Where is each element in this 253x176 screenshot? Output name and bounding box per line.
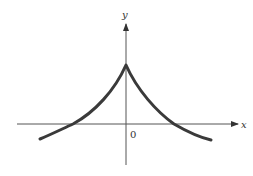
y-axis-label: y	[121, 9, 128, 20]
chart: y x 0	[0, 0, 253, 176]
x-axis-label: x	[241, 119, 247, 130]
origin-label: 0	[130, 129, 136, 140]
